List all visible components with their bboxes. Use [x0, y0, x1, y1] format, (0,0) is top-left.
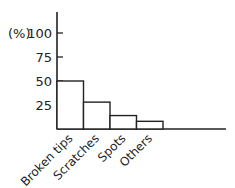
y-tick-label: 25: [35, 98, 52, 113]
chart-canvas: 255075100(%)Broken tipsScratchesSpotsOth…: [0, 0, 235, 188]
y-tick-label: 50: [35, 74, 52, 89]
bar: [110, 116, 137, 129]
bar: [137, 121, 164, 129]
pareto-bar-chart: 255075100(%)Broken tipsScratchesSpotsOth…: [0, 0, 235, 188]
bar: [84, 102, 111, 129]
y-axis-label: (%): [8, 26, 31, 41]
y-tick-label: 100: [27, 26, 52, 41]
y-tick-label: 75: [35, 50, 52, 65]
bar: [57, 81, 84, 129]
